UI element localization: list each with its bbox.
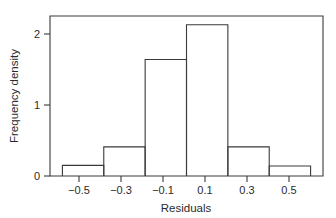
x-tick-label-0-3: 0.3 (239, 184, 254, 196)
x-tick-label-0-1: 0.1 (197, 184, 212, 196)
x-axis-title: Residuals (161, 202, 212, 214)
histogram-bar (62, 165, 103, 176)
histogram-bar (187, 25, 228, 176)
histogram-bars (62, 25, 310, 176)
y-axis-tick-labels: 0 1 2 (34, 28, 40, 182)
x-axis-ticks (79, 176, 289, 182)
x-tick-label-0-5: 0.5 (281, 184, 296, 196)
histogram-figure: 0 1 2 −0.5 −0.3 −0.1 0.1 0.3 0.5 Residua… (0, 0, 336, 218)
x-tick-label-neg-0-3: −0.3 (110, 184, 132, 196)
x-tick-label-neg-0-5: −0.5 (68, 184, 90, 196)
x-tick-label-neg-0-1: −0.1 (152, 184, 174, 196)
y-axis-title: Frequency density (8, 49, 20, 143)
y-tick-label-0: 0 (34, 170, 40, 182)
histogram-bar (104, 147, 145, 176)
y-tick-label-2: 2 (34, 28, 40, 40)
histogram-bar (269, 166, 310, 176)
histogram-canvas: 0 1 2 −0.5 −0.3 −0.1 0.1 0.3 0.5 Residua… (0, 0, 336, 218)
histogram-bar (145, 60, 186, 176)
y-tick-label-1: 1 (34, 99, 40, 111)
histogram-bar (228, 147, 269, 176)
x-axis-tick-labels: −0.5 −0.3 −0.1 0.1 0.3 0.5 (68, 184, 297, 196)
y-axis-ticks (44, 34, 50, 176)
